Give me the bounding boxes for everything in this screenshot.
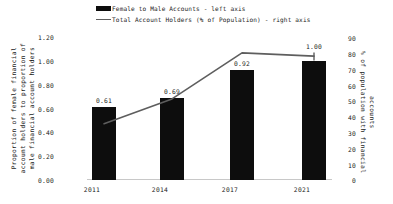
line-swatch-icon xyxy=(96,19,111,20)
x-axis-tick-2011: 2011 xyxy=(67,186,117,193)
left-axis-tick: 1.00 xyxy=(14,58,54,65)
left-axis-tick: 0.40 xyxy=(14,129,54,136)
x-axis-tick-2017: 2017 xyxy=(205,186,255,193)
right-axis-tick: 50 xyxy=(338,98,356,105)
right-axis-tick: 90 xyxy=(338,35,356,42)
left-axis-tick: 1.20 xyxy=(14,34,54,41)
line-series-total-account-holders xyxy=(87,37,332,180)
right-axis-title-line-1: % of population with financial xyxy=(360,51,367,173)
chart-container: Female to Male Accounts - left axis Tota… xyxy=(0,0,393,204)
right-axis-tick: 60 xyxy=(338,83,356,90)
left-axis-tick: 0.00 xyxy=(14,177,54,184)
right-axis-tick: 80 xyxy=(338,51,356,58)
bar-swatch-icon xyxy=(96,6,111,11)
right-axis-tick: 0 xyxy=(338,177,356,184)
legend-item-line: Total Account Holders (% of Population) … xyxy=(96,14,346,25)
legend-label-line: Total Account Holders (% of Population) … xyxy=(112,14,311,25)
plot-area: 0.61 0.69 0.92 1.00 xyxy=(87,37,332,180)
right-axis-tick: 30 xyxy=(338,130,356,137)
left-axis-tick: 0.80 xyxy=(14,82,54,89)
left-axis-tick: 0.20 xyxy=(14,153,54,160)
right-axis-title: % of population with financial accounts xyxy=(360,37,390,187)
legend-item-bars: Female to Male Accounts - left axis xyxy=(96,3,346,14)
x-axis-tick-2021: 2021 xyxy=(277,186,327,193)
chart-legend: Female to Male Accounts - left axis Tota… xyxy=(96,3,346,25)
right-axis-title-line-2: accounts xyxy=(369,96,376,129)
right-axis-tick: 40 xyxy=(338,114,356,121)
right-axis-tick: 10 xyxy=(338,162,356,169)
x-axis-tick-2014: 2014 xyxy=(135,186,185,193)
legend-label-bars: Female to Male Accounts - left axis xyxy=(112,3,246,14)
left-axis-tick: 0.60 xyxy=(14,106,54,113)
right-axis-tick: 70 xyxy=(338,67,356,74)
right-axis-tick: 20 xyxy=(338,146,356,153)
